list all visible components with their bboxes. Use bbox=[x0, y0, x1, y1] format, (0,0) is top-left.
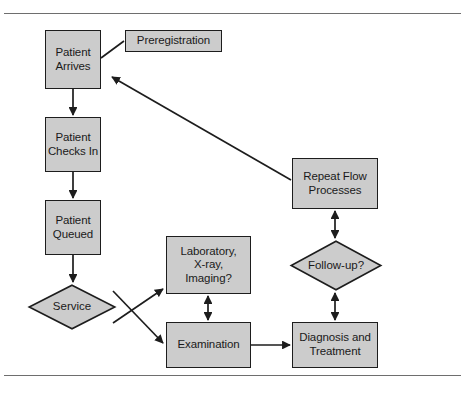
node-patient-queued: PatientQueued bbox=[45, 200, 101, 255]
node-service: Service bbox=[28, 284, 116, 330]
node-patient-checks-in: PatientChecks In bbox=[45, 117, 101, 172]
edge-repeat-flow-to-patient-arrives bbox=[112, 77, 291, 180]
node-laboratory: Laboratory,X-ray,Imaging? bbox=[166, 236, 251, 294]
flowchart-figure: PatientArrivesPreregistrationPatientChec… bbox=[0, 0, 465, 393]
node-examination: Examination bbox=[166, 322, 251, 368]
node-label-follow-up: Follow-up? bbox=[290, 240, 382, 291]
node-label-service: Service bbox=[28, 284, 116, 330]
node-preregistration: Preregistration bbox=[125, 30, 222, 52]
node-patient-arrives: PatientArrives bbox=[45, 30, 101, 89]
edge-preregistration-to-patient-arrives bbox=[101, 41, 124, 58]
node-diagnosis: Diagnosis andTreatment bbox=[292, 322, 378, 368]
node-follow-up: Follow-up? bbox=[290, 240, 382, 291]
node-repeat-flow: Repeat FlowProcesses bbox=[292, 158, 378, 209]
